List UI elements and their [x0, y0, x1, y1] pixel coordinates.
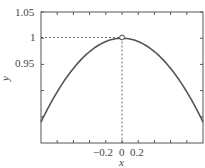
- chart-plot: [0, 0, 205, 168]
- y-tick-label: 1.05: [15, 7, 34, 18]
- y-tick-label: 1: [30, 32, 36, 43]
- y-axis-label: y: [0, 76, 11, 81]
- x-axis-label: x: [119, 157, 124, 168]
- x-tick-label: 0.2: [130, 147, 144, 158]
- x-tick-label: −0.2: [93, 147, 113, 158]
- y-tick-label: 0.95: [15, 58, 34, 69]
- peak-marker: [120, 35, 125, 40]
